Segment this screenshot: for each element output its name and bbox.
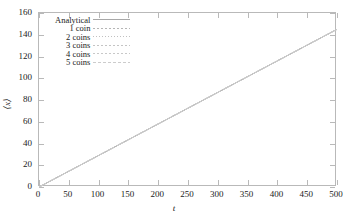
x-tick-label: 300 <box>210 190 224 199</box>
y-tick-label: 20 <box>4 160 32 169</box>
legend-line-sample <box>93 45 130 46</box>
y-tick-label: 120 <box>4 51 32 60</box>
x-axis-title: t <box>0 203 348 213</box>
legend-line-sample <box>93 28 130 29</box>
legend-label: 5 coins <box>66 58 93 66</box>
x-tick-label: 500 <box>329 190 343 199</box>
x-tick-label: 450 <box>299 190 313 199</box>
x-tick-label: 350 <box>240 190 254 199</box>
y-tick-mark <box>330 187 335 188</box>
y-tick-label: 140 <box>4 29 32 38</box>
legend-item: Analytical <box>55 16 130 24</box>
x-tick-label: 400 <box>270 190 284 199</box>
y-tick-label: 40 <box>4 138 32 147</box>
y-tick-label: 0 <box>4 182 32 191</box>
y-tick-label: 60 <box>4 116 32 125</box>
x-tick-label: 200 <box>150 190 164 199</box>
x-tick-label: 0 <box>36 190 41 199</box>
legend-line-sample <box>93 53 130 54</box>
y-axis-title: ⟨x⟩ <box>2 98 12 109</box>
x-tick-label: 250 <box>180 190 194 199</box>
chart-legend: Analytical1 coin2 coins3 coins4 coins5 c… <box>55 16 130 66</box>
x-tick-mark <box>337 180 338 185</box>
legend-line-sample <box>93 36 130 37</box>
x-tick-mark <box>337 13 338 18</box>
x-tick-label: 100 <box>91 190 105 199</box>
y-tick-label: 100 <box>4 73 32 82</box>
legend-line-sample <box>93 19 130 21</box>
x-tick-label: 50 <box>63 190 72 199</box>
x-tick-label: 150 <box>121 190 135 199</box>
legend-item: 5 coins <box>55 58 130 66</box>
chart-figure: 020406080100120140160 050100150200250300… <box>0 0 348 224</box>
legend-line-sample <box>93 62 130 63</box>
y-tick-label: 160 <box>4 8 32 17</box>
